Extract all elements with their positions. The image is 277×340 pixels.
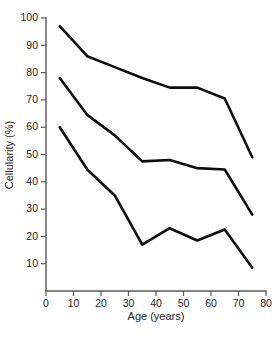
y-tick-label: 70 (26, 93, 38, 105)
series-line-lower (60, 127, 253, 268)
x-tick-label: 50 (178, 297, 190, 309)
x-tick-label: 20 (95, 297, 107, 309)
data-series-group (60, 26, 253, 268)
y-tick-label: 50 (26, 148, 38, 160)
y-tick-label: 20 (26, 230, 38, 242)
y-tick-label: 60 (26, 120, 38, 132)
x-axis-title: Age (years) (128, 310, 185, 322)
y-axis-ticks: 102030405060708090100 (20, 11, 46, 269)
y-tick-label: 90 (26, 39, 38, 51)
y-tick-label: 80 (26, 66, 38, 78)
cellularity-vs-age-line-chart: 102030405060708090100 01020304050607080 … (0, 0, 277, 340)
x-tick-label: 30 (123, 297, 135, 309)
y-tick-label: 100 (20, 11, 38, 23)
x-tick-label: 70 (233, 297, 245, 309)
x-tick-label: 40 (150, 297, 162, 309)
y-tick-label: 30 (26, 202, 38, 214)
y-tick-label: 40 (26, 175, 38, 187)
x-tick-label: 10 (68, 297, 80, 309)
y-axis-title: Cellularity (%) (3, 121, 15, 189)
series-line-upper (60, 26, 253, 157)
x-tick-label: 60 (205, 297, 217, 309)
x-tick-label: 80 (260, 297, 272, 309)
y-tick-label: 10 (26, 257, 38, 269)
chart-container: 102030405060708090100 01020304050607080 … (0, 0, 277, 340)
x-tick-label: 0 (43, 297, 49, 309)
x-axis-ticks: 01020304050607080 (43, 291, 272, 309)
